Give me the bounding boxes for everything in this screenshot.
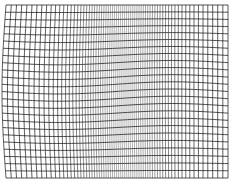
grid-line <box>5 12 228 13</box>
grid-line <box>29 5 32 178</box>
mesh-grid <box>0 0 231 184</box>
grid-line <box>91 5 93 178</box>
grid-line <box>85 5 87 178</box>
grid-line <box>132 5 133 178</box>
grid-line <box>69 5 71 178</box>
grid-line <box>93 5 94 178</box>
grid-line <box>44 5 47 178</box>
grid-line <box>147 5 148 178</box>
grid-line <box>130 5 131 178</box>
grid-line <box>53 5 55 178</box>
grid-line <box>134 5 135 178</box>
grid-line <box>34 5 37 178</box>
grid-line <box>76 5 78 178</box>
grid-line <box>105 5 106 178</box>
grid-line <box>141 5 142 178</box>
grid-line <box>39 5 42 178</box>
grid-line <box>107 5 108 178</box>
grid-line <box>138 5 139 178</box>
grid-line <box>98 5 99 178</box>
grid-line <box>100 5 101 178</box>
grid-line <box>24 5 27 178</box>
grid-line <box>150 5 151 178</box>
grid-line <box>103 5 104 178</box>
grid-line <box>88 5 90 178</box>
grid-line <box>124 5 125 178</box>
grid-line <box>5 170 228 171</box>
grid-line <box>13 5 17 178</box>
grid-line <box>82 5 84 178</box>
grid-line <box>143 5 144 178</box>
grid-line <box>73 5 75 178</box>
deformed-grid-figure <box>0 0 231 184</box>
grid-line <box>66 5 68 178</box>
grid-line <box>128 5 129 178</box>
grid-line <box>18 5 21 178</box>
grid-line <box>49 5 52 178</box>
grid-line <box>79 5 81 178</box>
grid-line <box>136 5 137 178</box>
grid-line <box>126 5 127 178</box>
grid-line <box>145 5 146 178</box>
grid-line <box>58 5 60 178</box>
grid-line <box>62 5 64 178</box>
grid-line <box>96 5 97 178</box>
